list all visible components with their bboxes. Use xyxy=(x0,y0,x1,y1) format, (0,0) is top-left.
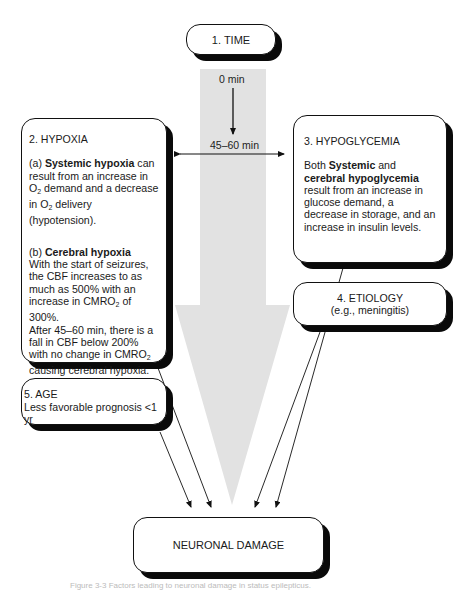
time-box-label: 1. TIME xyxy=(212,34,250,46)
hypoglycemia-title: 3. HYPOGLYCEMIA xyxy=(304,135,440,147)
figure-caption: Figure 3-3 Factors leading to neuronal d… xyxy=(70,581,311,590)
systemic-hypoxia-text: (a) Systemic hypoxia can result from an … xyxy=(29,157,160,226)
cerebral-hypoxia-heading: (b) Cerebral hypoxia xyxy=(29,246,160,258)
cerebral-hypoxia-text: With the start of seizures, the CBF incr… xyxy=(29,258,160,377)
time-flow-arrow xyxy=(175,69,290,505)
time-box: 1. TIME xyxy=(186,24,276,55)
hypoxia-title: 2. HYPOXIA xyxy=(29,133,160,145)
hypoglycemia-box: 3. HYPOGLYCEMIA Both Systemic and cerebr… xyxy=(293,115,447,263)
age-title: 5. AGE xyxy=(24,388,162,401)
neuronal-damage-box: NEURONAL DAMAGE xyxy=(133,517,324,573)
timeline-start-label: 0 min xyxy=(219,73,245,85)
etiology-title: 4. ETIOLOGY xyxy=(337,292,403,305)
age-box: 5. AGE Less favorable prognosis <1 yr xyxy=(21,378,167,425)
hypoxia-box: 2. HYPOXIA (a) Systemic hypoxia can resu… xyxy=(21,118,167,363)
timeline-end-label: 45–60 min xyxy=(210,139,259,151)
neuronal-damage-label: NEURONAL DAMAGE xyxy=(173,539,284,551)
etiology-box: 4. ETIOLOGY (e.g., meningitis) xyxy=(293,282,447,326)
etiology-subtitle: (e.g., meningitis) xyxy=(331,304,409,317)
age-text: Less favorable prognosis <1 yr xyxy=(24,401,162,426)
hypoglycemia-text: Both Systemic and cerebral hypoglycemia … xyxy=(304,159,440,233)
